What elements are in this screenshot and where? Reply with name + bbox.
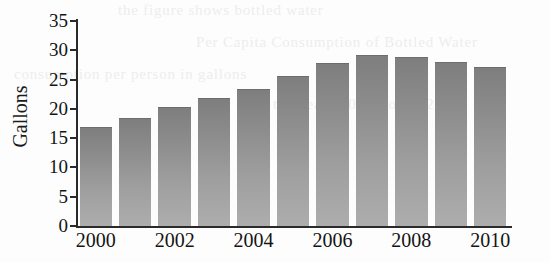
bar: [474, 67, 506, 226]
y-tick-label: 10: [36, 157, 68, 176]
bar: [356, 55, 388, 226]
y-tick-label: 15: [36, 128, 68, 147]
x-tick-label: 2008: [379, 229, 443, 251]
x-tick-label: 2010: [458, 229, 522, 251]
y-axis-title-text: Gallons: [9, 85, 32, 147]
y-tick-label: 25: [36, 70, 68, 89]
y-tick-label: 5: [36, 187, 68, 206]
x-tick-label: 2006: [300, 229, 364, 251]
bar: [277, 76, 309, 226]
y-axis-title: Gallons: [2, 0, 38, 232]
bar: [316, 63, 348, 226]
y-tick-label: 30: [36, 40, 68, 59]
bar: [158, 107, 190, 226]
y-tick-label: 20: [36, 99, 68, 118]
x-axis-line: [76, 226, 512, 228]
bar: [119, 118, 151, 226]
bar: [435, 62, 467, 226]
bar: [237, 89, 269, 226]
bar: [395, 57, 427, 226]
plot-area: [76, 21, 510, 226]
x-tick-label: 2004: [222, 229, 286, 251]
bar: [198, 98, 230, 226]
bar: [80, 127, 112, 226]
x-tick-label: 2002: [143, 229, 207, 251]
bar-chart-figure: Gallons 05101520253035 20002002200420062…: [0, 0, 550, 263]
x-tick-label: 2000: [64, 229, 128, 251]
y-tick-label: 35: [36, 11, 68, 30]
